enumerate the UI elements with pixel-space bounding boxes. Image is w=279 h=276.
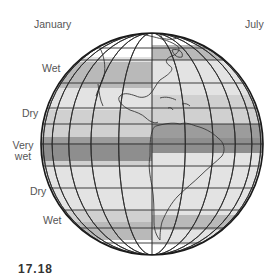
band-light (0, 57, 279, 62)
band-mid (0, 222, 279, 240)
figure-number: 17.18 (18, 262, 53, 276)
band-white (0, 20, 279, 57)
